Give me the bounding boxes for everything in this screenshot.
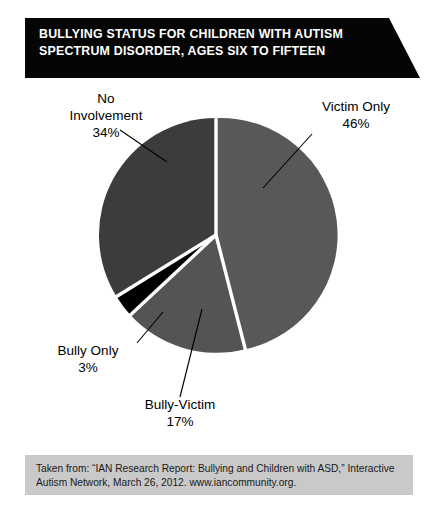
callout-no-involvement-line-2: Involvement (48, 107, 164, 124)
callout-bully-victim: Bully-Victim 17% (110, 396, 250, 430)
header-banner: BULLYING STATUS FOR CHILDREN WITH AUTISM… (25, 18, 420, 78)
page-title-line-2: SPECTRUM DISORDER, AGES SIX TO FIFTEEN (39, 43, 369, 60)
page-title-line-1: BULLYING STATUS FOR CHILDREN WITH AUTISM (39, 26, 369, 43)
callout-victim-only: Victim Only 46% (300, 98, 412, 132)
pie-chart: No Involvement 34% Victim Only 46% Bully… (0, 78, 437, 450)
callout-bully-victim-percent: 17% (110, 413, 250, 430)
page-title: BULLYING STATUS FOR CHILDREN WITH AUTISM… (39, 26, 369, 60)
callout-no-involvement: No Involvement 34% (48, 90, 164, 141)
source-citation: Taken from: “IAN Research Report: Bullyi… (36, 462, 400, 489)
callout-no-involvement-percent: 34% (48, 124, 164, 141)
callout-no-involvement-line-1: No (48, 90, 164, 107)
infographic-page: BULLYING STATUS FOR CHILDREN WITH AUTISM… (0, 0, 437, 514)
callout-bully-only-percent: 3% (32, 359, 144, 376)
callout-bully-only-label: Bully Only (32, 342, 144, 359)
callout-bully-only: Bully Only 3% (32, 342, 144, 376)
callout-bully-victim-label: Bully-Victim (110, 396, 250, 413)
callout-victim-only-label: Victim Only (300, 98, 412, 115)
source-footer-bar: Taken from: “IAN Research Report: Bullyi… (25, 455, 413, 495)
callout-victim-only-percent: 46% (300, 115, 412, 132)
